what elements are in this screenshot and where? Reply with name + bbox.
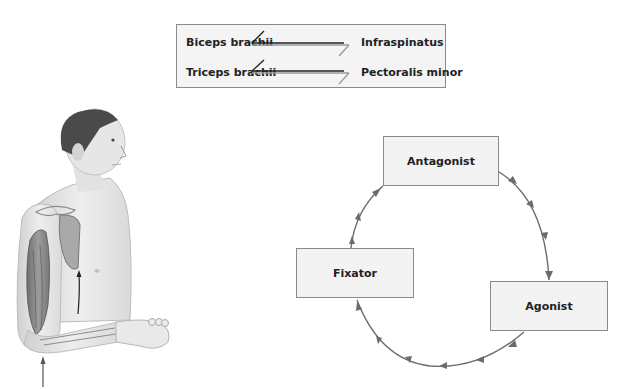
arrowhead-icon: [545, 271, 553, 280]
arrowhead-icon: [476, 356, 484, 363]
arrowhead-icon: [439, 362, 447, 369]
arrowhead-icon: [349, 236, 355, 244]
cycle-arrows: [0, 0, 624, 389]
arrowhead-icon: [526, 200, 534, 208]
